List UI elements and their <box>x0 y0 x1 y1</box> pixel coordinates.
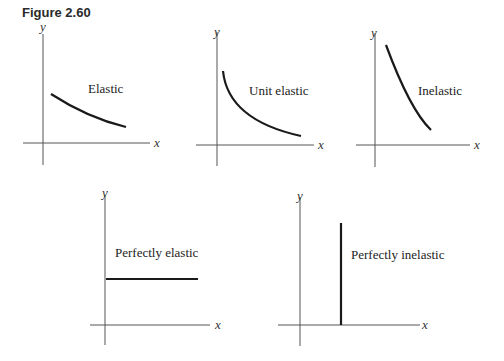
panel-elastic: y x Elastic <box>23 19 160 165</box>
panel-label: Unit elastic <box>249 83 309 98</box>
panel-unit-elastic: y x Unit elastic <box>196 24 324 166</box>
y-axis-label: y <box>369 25 377 40</box>
x-axis-label: x <box>421 317 428 332</box>
panel-perfectly-elastic: y x Perfectly elastic <box>90 185 221 345</box>
x-axis-label: x <box>214 317 221 332</box>
elasticity-diagrams: y x Elastic y x Unit elastic y x Inelast… <box>0 0 504 361</box>
x-axis-label: x <box>317 137 324 152</box>
y-axis-label: y <box>212 24 220 39</box>
demand-curve <box>51 94 126 127</box>
panel-label: Inelastic <box>418 83 462 98</box>
panel-label: Perfectly elastic <box>115 245 199 260</box>
x-axis-label: x <box>153 135 160 150</box>
y-axis-label: y <box>38 19 46 34</box>
y-axis-label: y <box>295 188 303 203</box>
demand-curve <box>223 71 301 136</box>
y-axis-label: y <box>100 185 108 200</box>
x-axis-label: x <box>473 137 480 152</box>
panel-label: Elastic <box>88 81 124 96</box>
panel-perfectly-inelastic: y x Perfectly inelastic <box>278 188 445 346</box>
panel-inelastic: y x Inelastic <box>356 25 480 167</box>
panel-label: Perfectly inelastic <box>351 247 445 262</box>
